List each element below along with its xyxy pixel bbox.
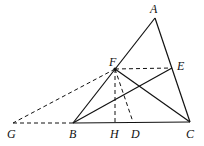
segment-bc: [73, 122, 190, 123]
label-c: C: [186, 127, 195, 141]
label-b: B: [69, 127, 77, 141]
label-g: G: [7, 127, 16, 141]
label-h: H: [109, 127, 120, 141]
label-e: E: [176, 59, 185, 73]
segment-ab: [73, 18, 155, 123]
segment-fg: [13, 69, 115, 123]
segment-fd: [115, 69, 133, 122]
label-f: F: [108, 55, 117, 69]
segment-cf: [115, 69, 190, 122]
segment-fe: [115, 68, 172, 69]
segment-ac: [155, 18, 190, 122]
label-a: A: [149, 2, 158, 16]
segment-be: [73, 68, 172, 123]
label-d: D: [130, 127, 140, 141]
geometry-diagram: A B C D E F G H: [0, 0, 204, 146]
